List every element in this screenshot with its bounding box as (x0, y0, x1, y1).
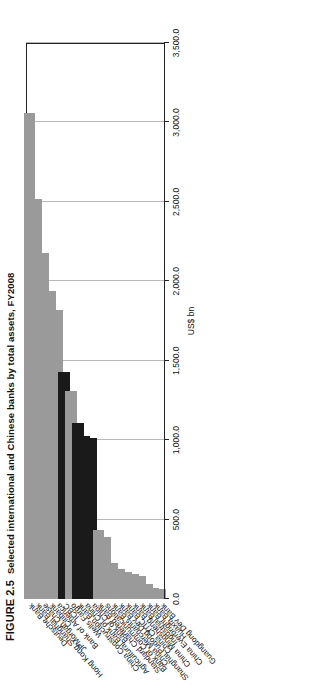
category-label: China Merchants Bank (110, 601, 317, 685)
category-label: Deutsche Bank (27, 601, 234, 685)
axis-tick (164, 42, 169, 43)
category-label: Agricultural Bank of China (82, 601, 289, 685)
axis-title: US$ bn (186, 43, 196, 599)
axis-line (164, 43, 165, 599)
axis-tick-label: 2,500.0 (171, 188, 181, 216)
category-label: China Construction Bank (75, 601, 282, 685)
axis-tick-label: 1,000.0 (171, 426, 181, 454)
category-label: China Everbright Bank (144, 601, 320, 685)
axis-tick-label: 2,000.0 (171, 267, 181, 295)
axis-tick (164, 439, 169, 440)
category-label: Standard Chartered Bank (96, 601, 303, 685)
gridline (26, 42, 164, 43)
figure-caption-text: Selected international and Chinese banks… (5, 273, 16, 581)
category-label: JPMorgan Chase (41, 601, 248, 685)
category-label: Shanghai Pudong Dev Bank (117, 601, 320, 685)
category-label: Citibank (48, 601, 255, 685)
gridline (26, 201, 164, 202)
category-label: Bank of America (55, 601, 262, 685)
axis-tick-label: 3,500.0 (171, 29, 181, 57)
axis-tick-label: 3,000.0 (171, 108, 181, 136)
axis-tick (164, 598, 169, 599)
category-label: ICBC (61, 601, 268, 685)
axis-tick-label: 0.0 (171, 593, 181, 605)
chart-plot-area (26, 43, 164, 599)
category-label: Bank of Communications (103, 601, 310, 685)
category-label: Huaxia Bank (151, 601, 320, 685)
category-label: Guangdong Dev Bank (158, 601, 320, 685)
category-label: Wells Fargo (68, 601, 275, 685)
category-label: China Mingsheng Bank (130, 601, 320, 685)
axis-tick (164, 280, 169, 281)
category-label: Hong Kong Shanghai Bank (34, 601, 241, 685)
category-label: Industrial Bank (137, 601, 320, 685)
category-label: Bank of China (89, 601, 296, 685)
axis-tick (164, 360, 169, 361)
axis-tick-label: 500.0 (171, 509, 181, 530)
axis-tick (164, 519, 169, 520)
category-label: China CITIC Bank (124, 601, 320, 685)
figure-number: FIGURE 2.5 (4, 580, 16, 641)
axis-tick-label: 1,500.0 (171, 347, 181, 375)
axis-tick (164, 201, 169, 202)
figure-caption: FIGURE 2.5Selected international and Chi… (4, 273, 16, 641)
axis-tick (164, 121, 169, 122)
gridline (26, 121, 164, 122)
